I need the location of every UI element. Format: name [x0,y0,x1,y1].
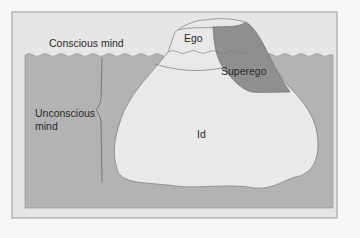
id-label: Id [197,128,206,140]
unconscious-mind-label-line2: mind [35,120,58,132]
conscious-mind-label: Conscious mind [49,37,124,49]
unconscious-mind-label-line1: Unconscious [35,107,95,119]
iceberg-diagram: Conscious mind Unconscious mind Ego Supe… [0,0,360,238]
ego-label: Ego [184,32,203,44]
superego-label: Superego [221,65,267,77]
